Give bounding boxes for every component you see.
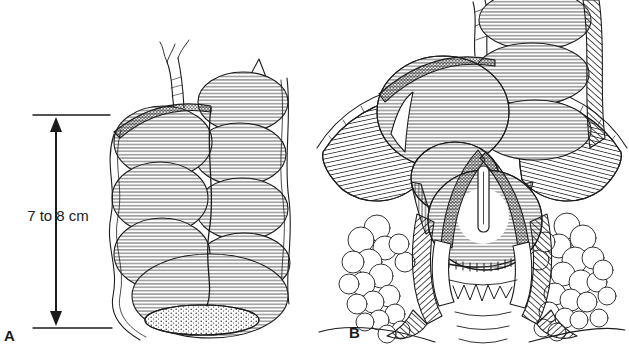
arrow-down-icon — [50, 311, 62, 326]
panel-a-illustration: 7 to 8 cm A — [0, 0, 315, 353]
pouch-bottom-drawing — [132, 254, 288, 338]
two-panel-anatomy-figure: 7 to 8 cm A — [0, 0, 629, 353]
panel-a-label: A — [4, 327, 15, 344]
vascular-stalk-drawing — [160, 40, 189, 108]
drain-tube-drawing — [478, 166, 489, 232]
panel-b-label: B — [349, 324, 360, 341]
dentate-line-drawing — [449, 280, 517, 301]
measurement-label: 7 to 8 cm — [27, 207, 89, 224]
arrow-up-icon — [50, 117, 62, 132]
panel-b-illustration: B — [315, 0, 629, 353]
anal-canal-lower-drawing — [455, 312, 511, 343]
